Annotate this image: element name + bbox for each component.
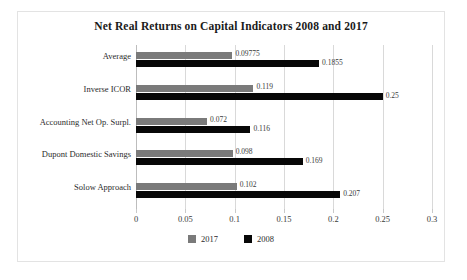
bar-value-label: 0.207 (343, 189, 360, 198)
x-tick-mark (432, 209, 433, 213)
gridline-0.3 (432, 45, 433, 209)
bar-value-label: 0.119 (256, 82, 273, 91)
bar-value-label: 0.169 (306, 156, 323, 165)
x-tick-label: 0.15 (277, 214, 292, 224)
x-tick-label: 0.1 (229, 214, 240, 224)
bar-value-label: 0.116 (253, 124, 270, 133)
bar-value-label: 0.09775 (235, 49, 259, 58)
x-tick-mark (333, 209, 334, 213)
bar-value-label: 0.102 (240, 180, 257, 189)
x-tick-label: 0 (134, 214, 138, 224)
bar-value-label: 0.1855 (322, 58, 343, 67)
category-label: Average (103, 51, 131, 61)
category-label: Accounting Net Op. Surpl. (40, 117, 131, 127)
bar-2017-average (136, 52, 232, 59)
bar-2008-accounting-net-op-surpl (136, 126, 250, 133)
bar-2017-solow-approach (136, 183, 237, 190)
chart-category-row: Solow Approach0.1020.207 (136, 176, 432, 209)
bar-2008-solow-approach (136, 191, 340, 198)
x-axis: 00.050.10.150.20.250.3 (136, 209, 432, 229)
bar-value-label: 0.072 (210, 115, 227, 124)
legend-swatch-icon (244, 235, 252, 243)
chart-category-row: Accounting Net Op. Surpl.0.0720.116 (136, 111, 432, 144)
legend-label: 2017 (201, 234, 218, 244)
chart-category-row: Average0.097750.1855 (136, 45, 432, 78)
bar-2008-dupont-domestic-savings (136, 158, 303, 165)
chart-category-row: Inverse ICOR0.1190.25 (136, 78, 432, 111)
bar-2008-inverse-icor (136, 93, 383, 100)
x-tick-label: 0.25 (375, 214, 390, 224)
legend-label: 2008 (257, 234, 274, 244)
chart-category-row: Dupont Domestic Savings0.0980.169 (136, 143, 432, 176)
plot-area: Average0.097750.1855Inverse ICOR0.1190.2… (136, 45, 432, 209)
chart-title: Net Real Returns on Capital Indicators 2… (18, 20, 444, 32)
x-tick-mark (185, 209, 186, 213)
bar-2017-dupont-domestic-savings (136, 150, 233, 157)
legend-swatch-icon (188, 235, 196, 243)
x-tick-mark (235, 209, 236, 213)
x-tick-mark (136, 209, 137, 213)
legend-entry-2008[interactable]: 2008 (244, 234, 274, 244)
category-label: Inverse ICOR (84, 84, 131, 94)
legend-entry-2017[interactable]: 2017 (188, 234, 218, 244)
category-label: Solow Approach (74, 182, 131, 192)
bar-value-label: 0.25 (386, 91, 399, 100)
x-tick-label: 0.3 (427, 214, 438, 224)
chart-legend: 20172008 (18, 234, 444, 244)
chart-frame: Net Real Returns on Capital Indicators 2… (17, 11, 445, 262)
bar-2017-accounting-net-op-surpl (136, 118, 207, 125)
x-tick-label: 0.05 (178, 214, 193, 224)
bar-value-label: 0.098 (236, 147, 253, 156)
x-tick-label: 0.2 (328, 214, 339, 224)
x-tick-mark (284, 209, 285, 213)
bar-2017-inverse-icor (136, 85, 253, 92)
bar-2008-average (136, 60, 319, 67)
x-tick-mark (383, 209, 384, 213)
category-label: Dupont Domestic Savings (42, 149, 131, 159)
